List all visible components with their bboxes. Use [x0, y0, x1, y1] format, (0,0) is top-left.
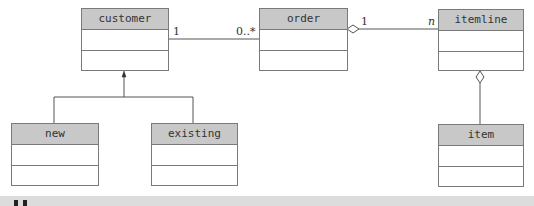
- class-customer[interactable]: customer: [81, 8, 169, 71]
- attributes-section: [82, 30, 168, 51]
- operations-section: [152, 166, 237, 186]
- class-name: customer: [82, 9, 168, 30]
- generalization-arrowhead-icon: [122, 71, 126, 77]
- attributes-section: [152, 145, 237, 166]
- cropped-glyph-icon: [14, 200, 18, 206]
- attributes-section: [439, 31, 523, 52]
- attributes-section: [260, 30, 347, 51]
- class-new[interactable]: new: [11, 123, 99, 186]
- operations-section: [260, 51, 347, 71]
- attributes-section: [439, 146, 523, 167]
- bottom-bar: [0, 196, 534, 206]
- class-name: item: [439, 125, 523, 146]
- aggregation-diamond-icon: [347, 25, 359, 33]
- aggregation-diamond-icon: [476, 71, 484, 83]
- operations-section: [439, 52, 523, 71]
- multiplicity-label: n: [428, 16, 435, 28]
- class-item[interactable]: item: [438, 124, 524, 187]
- operations-section: [439, 167, 523, 187]
- operations-section: [82, 51, 168, 71]
- cropped-glyph-icon: [23, 200, 27, 206]
- class-name: itemline: [439, 10, 523, 31]
- class-name: existing: [152, 124, 237, 145]
- multiplicity-label: 1: [361, 16, 368, 28]
- class-name: new: [12, 124, 98, 145]
- class-existing[interactable]: existing: [151, 123, 238, 186]
- operations-section: [12, 166, 98, 186]
- uml-diagram-canvas: customer order itemline new existing ite…: [0, 0, 534, 206]
- class-itemline[interactable]: itemline: [438, 9, 524, 71]
- class-name: order: [260, 9, 347, 30]
- attributes-section: [12, 145, 98, 166]
- class-order[interactable]: order: [259, 8, 348, 71]
- multiplicity-label: 1: [173, 26, 180, 38]
- multiplicity-label: 0..*: [236, 26, 256, 38]
